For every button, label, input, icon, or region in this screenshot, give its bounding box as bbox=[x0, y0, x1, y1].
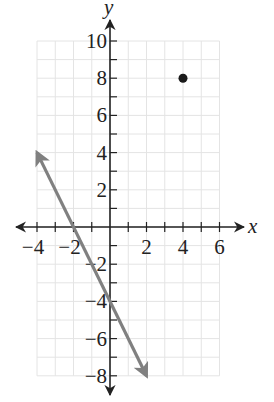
y-tick-label: 4 bbox=[97, 141, 108, 165]
y-tick-label: 6 bbox=[97, 103, 108, 127]
y-axis-label: y bbox=[102, 0, 114, 19]
y-tick-label: −6 bbox=[85, 327, 107, 351]
x-tick-label: 4 bbox=[178, 235, 189, 259]
y-tick-label: 10 bbox=[86, 29, 107, 53]
plotted-point bbox=[179, 74, 188, 83]
x-axis-label: x bbox=[247, 214, 258, 238]
x-tick-label: −2 bbox=[58, 235, 80, 259]
x-tick-label: 2 bbox=[141, 235, 152, 259]
coordinate-plane: −4−2246108642−2−4−6−8 x y bbox=[0, 0, 274, 402]
x-tick-label: −4 bbox=[22, 235, 45, 259]
y-tick-label: −4 bbox=[85, 289, 108, 313]
y-tick-label: 2 bbox=[97, 178, 108, 202]
x-tick-label: 6 bbox=[214, 235, 225, 259]
y-tick-label: 8 bbox=[97, 66, 108, 90]
y-tick-label: −8 bbox=[85, 364, 107, 388]
